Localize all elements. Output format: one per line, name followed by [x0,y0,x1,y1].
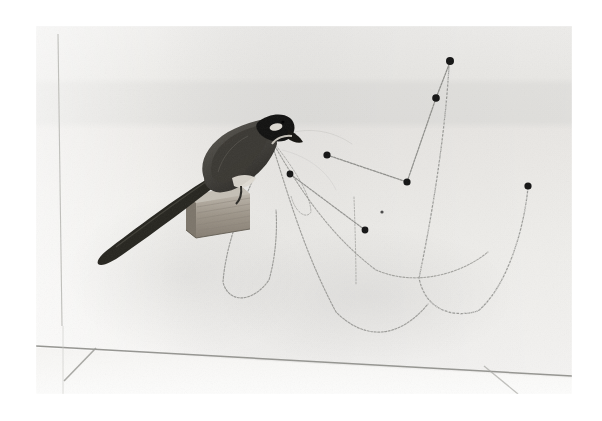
photograph-canvas [36,26,572,394]
photograph-frame [36,26,572,394]
photograph-page [0,0,602,421]
film-grain [36,26,572,394]
